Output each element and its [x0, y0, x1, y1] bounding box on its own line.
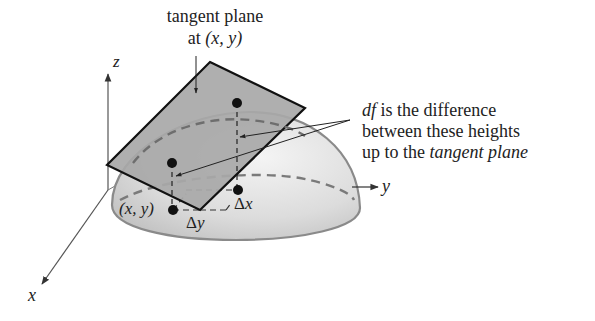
- x-axis: [42, 190, 108, 284]
- delta-x-label: Δx: [234, 194, 252, 214]
- plane-point-upper: [232, 98, 242, 108]
- df-annotation-line1: df is the difference: [362, 100, 528, 121]
- tangent-plane-label: tangent plane at (x, y): [150, 5, 280, 49]
- tangent-plane-line1: tangent plane: [150, 5, 280, 27]
- df-annotation: df is the difference between these heigh…: [362, 100, 528, 163]
- point-xy-dot: [168, 205, 178, 215]
- plane-point-lower: [167, 158, 177, 168]
- point-xy-label: (x, y): [119, 199, 154, 219]
- df-annotation-line3: up to the tangent plane: [362, 142, 528, 163]
- z-axis-label: z: [113, 52, 120, 72]
- delta-y-label: Δy: [186, 213, 204, 233]
- df-annotation-line2: between these heights: [362, 121, 528, 142]
- tangent-plane-line2: at (x, y): [150, 27, 280, 49]
- x-axis-label: x: [28, 285, 36, 306]
- y-axis-label: y: [382, 176, 390, 197]
- axes: [42, 74, 122, 284]
